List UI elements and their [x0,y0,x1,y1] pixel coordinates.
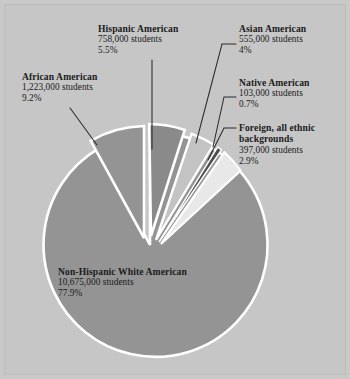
label-asian-american-value: 555,000 students [239,34,306,45]
label-african-american-percent: 9.2% [22,93,97,104]
label-foreign-percent: 2.9% [239,156,341,167]
label-native-american-title: Native American [239,77,310,88]
label-foreign-value: 397,000 students [239,145,341,156]
chart-page: African American 1,223,000 students 9.2%… [0,0,350,379]
label-foreign-title: Foreign, all ethnic backgrounds [239,122,341,145]
label-african-american: African American 1,223,000 students 9.2% [22,71,97,104]
label-non-hispanic-white-american-title: Non-Hispanic White American [58,266,187,277]
label-african-american-value: 1,223,000 students [22,82,97,93]
label-native-american-percent: 0.7% [239,99,310,110]
label-non-hispanic-white-american-value: 10,675,000 students [58,277,187,288]
label-asian-american-percent: 4% [239,45,306,56]
label-foreign: Foreign, all ethnic backgrounds 397,000 … [239,122,341,167]
label-african-american-title: African American [22,71,97,82]
label-hispanic-american-title: Hispanic American [98,23,178,34]
label-native-american-value: 103,000 students [239,88,310,99]
leader-line-african-american [70,108,97,145]
label-asian-american-title: Asian American [239,23,306,34]
pie-chart [0,0,350,379]
label-non-hispanic-white-american-percent: 77.9% [58,288,187,299]
leader-line-native-american [213,97,236,147]
label-native-american: Native American 103,000 students 0.7% [239,77,310,110]
pie-slices [44,124,268,357]
label-hispanic-american: Hispanic American 758,000 students 5.5% [98,23,178,56]
label-non-hispanic-white-american: Non-Hispanic White American 10,675,000 s… [58,266,187,299]
label-hispanic-american-percent: 5.5% [98,45,178,56]
label-asian-american: Asian American 555,000 students 4% [239,23,306,56]
label-hispanic-american-value: 758,000 students [98,34,178,45]
